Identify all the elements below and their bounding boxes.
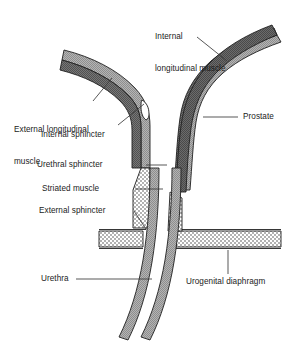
- label-internal-longitudinal-muscle: Internal longitudinal muscle: [155, 11, 226, 95]
- label-striated-muscle: Striated muscle: [42, 184, 99, 195]
- label-external-longitudinal-muscle: External longitudinal muscle: [14, 104, 89, 188]
- striated-muscle-column: [133, 168, 150, 228]
- urogenital-diaphragm-left: [99, 230, 146, 249]
- label-external-sphincter: External sphincter: [39, 206, 105, 217]
- label-internal-longitudinal-muscle-line1: Internal: [155, 32, 226, 43]
- anatomical-figure: Internal longitudinal muscle External lo…: [0, 0, 295, 352]
- label-urogenital-diaphragm: Urogenital diaphragm: [186, 277, 265, 288]
- label-prostate: Prostate: [243, 112, 274, 123]
- label-internal-longitudinal-muscle-line2: longitudinal muscle: [155, 64, 226, 75]
- urogenital-diaphragm-right: [174, 230, 281, 249]
- label-urethra: Urethra: [41, 274, 69, 285]
- label-urethral-sphincter: Urethral sphincter: [37, 160, 103, 171]
- urethra-walls: [119, 168, 181, 340]
- label-internal-sphincter: Internal sphincter: [41, 130, 105, 141]
